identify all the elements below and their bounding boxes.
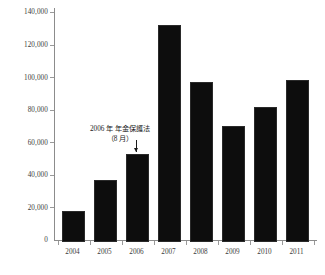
- x-tick-label-2006: 2006: [129, 248, 143, 256]
- annotation-pension-protection-act: 2006 年 年金保護法 （8 月）: [90, 124, 150, 145]
- x-tick-label-2011: 2011: [289, 248, 303, 256]
- y-tick-label-60000: 60,000: [2, 139, 48, 147]
- y-axis-line: [54, 8, 55, 241]
- y-tick-label-100000: 100,000: [2, 74, 48, 82]
- y-tick-label-80000: 80,000: [2, 106, 48, 114]
- x-tick-label-2005: 2005: [97, 248, 111, 256]
- annotation-arrow-head-icon: [134, 148, 138, 152]
- x-tick-label-2004: 2004: [65, 248, 79, 256]
- x-tick-mark-3: [154, 241, 155, 245]
- annotation-line-1: 2006 年 年金保護法: [90, 125, 150, 133]
- x-tick-label-2008: 2008: [193, 248, 207, 256]
- x-tick-label-2009: 2009: [225, 248, 239, 256]
- bar-2006: [126, 154, 149, 242]
- x-tick-mark-8: [314, 241, 315, 245]
- y-tick-label-120000: 120,000: [2, 41, 48, 49]
- bar-2009: [222, 126, 245, 242]
- bar-2005: [94, 180, 117, 242]
- bar-2008: [190, 82, 213, 242]
- x-tick-mark-5: [218, 241, 219, 245]
- x-tick-mark-0: [58, 241, 59, 245]
- x-tick-mark-4: [186, 241, 187, 245]
- x-tick-mark-7: [282, 241, 283, 245]
- x-tick-label-2007: 2007: [161, 248, 175, 256]
- x-tick-label-2010: 2010: [257, 248, 271, 256]
- x-tick-mark-1: [90, 241, 91, 245]
- y-tick-label-0: 0: [2, 236, 48, 244]
- y-tick-label-20000: 20,000: [2, 204, 48, 212]
- bar-2004: [62, 211, 85, 242]
- bar-2007: [158, 25, 181, 242]
- bar-2011: [286, 80, 309, 242]
- x-tick-mark-6: [250, 241, 251, 245]
- bar-chart: 140,000 120,000 100,000 80,000 60,000 40…: [0, 0, 325, 275]
- annotation-line-2: （8 月）: [90, 134, 150, 144]
- x-tick-mark-2: [122, 241, 123, 245]
- y-tick-label-40000: 40,000: [2, 171, 48, 179]
- bar-2010: [254, 107, 277, 243]
- y-tick-label-140000: 140,000: [2, 8, 48, 16]
